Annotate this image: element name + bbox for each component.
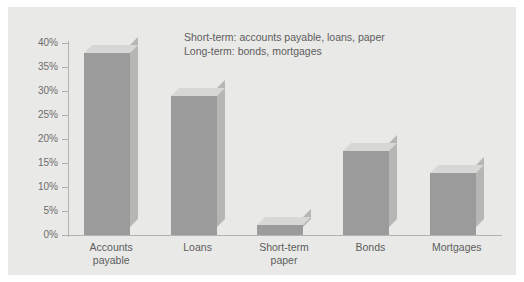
bar-top-face [430, 165, 484, 173]
y-tick-label: 30% [10, 86, 58, 96]
bar-front-face [84, 53, 130, 235]
category-label: Loans [154, 241, 240, 254]
bar-chart-figure: 40%35%30%25%20%15%10%5%0% Accounts payab… [0, 0, 524, 282]
chart-annotation: Short-term: accounts payable, loans, pap… [184, 31, 385, 58]
category-label: Bonds [327, 241, 413, 254]
bar [171, 88, 217, 235]
y-tick-label-wrap: 35% [8, 62, 58, 72]
y-tick-label-wrap: 15% [8, 158, 58, 168]
y-tick-label: 40% [10, 38, 58, 48]
bar-top-face [84, 45, 138, 53]
y-tick-label: 35% [10, 62, 58, 72]
bar [257, 217, 303, 235]
y-tick-label: 10% [10, 182, 58, 192]
bar-top-face [171, 88, 225, 96]
y-tick-label-wrap: 20% [8, 134, 58, 144]
bar [430, 165, 476, 235]
category-label: Accounts payable [68, 241, 154, 267]
y-tick-label-wrap: 0% [8, 230, 58, 240]
y-tick-label-wrap: 30% [8, 86, 58, 96]
y-tick-label-wrap: 25% [8, 110, 58, 120]
y-tick-label: 20% [10, 134, 58, 144]
bar [343, 143, 389, 235]
annotation-line-long-term: Long-term: bonds, mortgages [184, 45, 385, 59]
bar-top-face [257, 217, 311, 225]
y-tick-label: 5% [10, 206, 58, 216]
category-label: Mortgages [414, 241, 500, 254]
bar [84, 45, 130, 235]
annotation-line-short-term: Short-term: accounts payable, loans, pap… [184, 31, 385, 45]
y-tick-label: 15% [10, 158, 58, 168]
x-axis-line [68, 235, 502, 236]
y-tick-label-wrap: 10% [8, 182, 58, 192]
y-tick-label: 0% [10, 230, 58, 240]
y-tick-label-wrap: 40% [8, 38, 58, 48]
bar-side-face [217, 80, 225, 227]
bar-front-face [171, 96, 217, 235]
bar-front-face [343, 151, 389, 235]
bar-front-face [257, 225, 303, 235]
bar-side-face [130, 37, 138, 227]
y-tick-label-wrap: 5% [8, 206, 58, 216]
y-tick-mark [62, 235, 68, 236]
plot-area [68, 43, 500, 235]
bar-front-face [430, 173, 476, 235]
category-label: Short-term paper [241, 241, 327, 267]
y-tick-label: 25% [10, 110, 58, 120]
chart-panel: 40%35%30%25%20%15%10%5%0% Accounts payab… [8, 7, 516, 275]
bar-top-face [343, 143, 397, 151]
